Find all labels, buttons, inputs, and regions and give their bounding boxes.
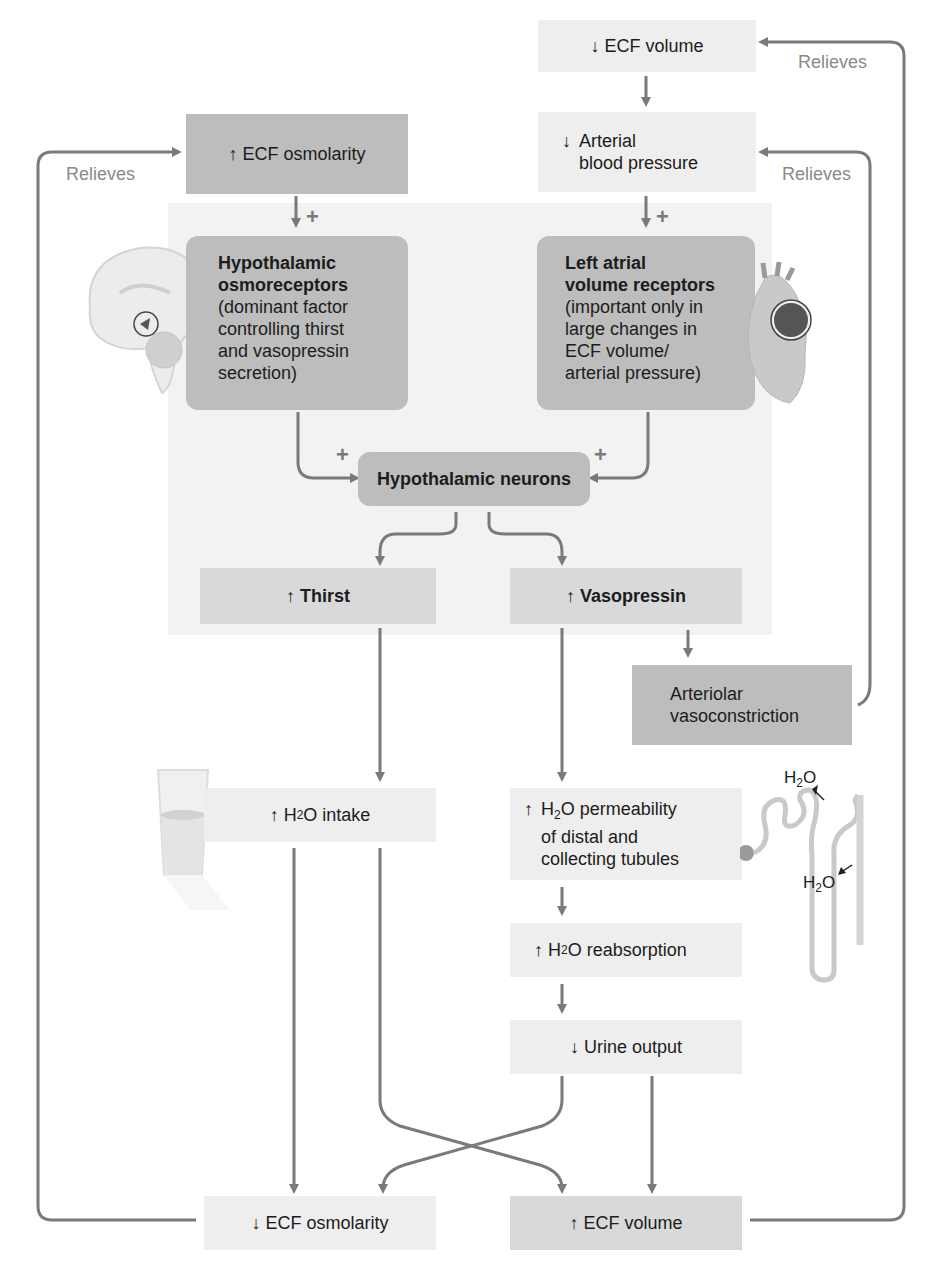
arteriolar-label: Arteriolar bbox=[670, 683, 799, 705]
up-arrow-icon: ↑ bbox=[286, 585, 295, 607]
atrial-desc-1: (important only in bbox=[565, 296, 741, 318]
h2o-h: H bbox=[548, 939, 561, 961]
up-arrow-icon: ↑ bbox=[534, 939, 543, 961]
h2o-sub: 2 bbox=[796, 776, 803, 790]
ecf-osmolarity-decrease-label: ECF osmolarity bbox=[265, 1212, 388, 1234]
urine-output-label: Urine output bbox=[584, 1036, 682, 1058]
atrial-receptors-box: Left atrial volume receptors (important … bbox=[537, 236, 755, 410]
up-arrow-icon: ↑ bbox=[228, 143, 237, 165]
atrial-desc-3: ECF volume/ bbox=[565, 340, 741, 362]
h2o-out-label: H2O bbox=[784, 768, 816, 790]
h2o-intake-label: O intake bbox=[303, 804, 370, 826]
ecf-volume-decrease-box: ↓ ECF volume bbox=[538, 20, 756, 72]
vasopressin-increase-box: ↑ Vasopressin bbox=[510, 568, 742, 624]
atrial-title-2: volume receptors bbox=[565, 274, 741, 296]
osmoreceptors-desc-3: and vasopressin bbox=[218, 340, 394, 362]
osmoreceptors-title-2: osmoreceptors bbox=[218, 274, 394, 296]
urine-output-decrease-box: ↓ Urine output bbox=[510, 1020, 742, 1074]
osmoreceptors-desc-4: secretion) bbox=[218, 362, 394, 384]
h2o-permeability-increase-box: ↑ H2O permeability of distal and collect… bbox=[510, 788, 742, 880]
connector-arrows bbox=[0, 0, 932, 1273]
plus-sign-right: + bbox=[594, 442, 607, 468]
down-arrow-icon: ↓ bbox=[251, 1212, 260, 1234]
relieves-label-mid: Relieves bbox=[782, 164, 851, 185]
plus-sign-atrial: + bbox=[656, 204, 669, 230]
distal-label: of distal and bbox=[541, 826, 679, 848]
down-arrow-icon: ↓ bbox=[590, 35, 599, 57]
relieves-label-top: Relieves bbox=[798, 52, 867, 73]
ecf-osmolarity-decrease-box: ↓ ECF osmolarity bbox=[204, 1196, 436, 1250]
osmoreceptors-box: Hypothalamic osmoreceptors (dominant fac… bbox=[186, 236, 408, 410]
collecting-tubules-label: collecting tubules bbox=[541, 848, 679, 870]
ecf-volume-increase-label: ECF volume bbox=[583, 1212, 682, 1234]
h2o-sub: 2 bbox=[815, 881, 822, 895]
h2o-reabsorption-label: O reabsorption bbox=[568, 939, 687, 961]
vasopressin-label: Vasopressin bbox=[580, 585, 686, 607]
blood-pressure-label: blood pressure bbox=[579, 152, 698, 174]
ecf-volume-decrease-label: ECF volume bbox=[604, 35, 703, 57]
h2o-o: O bbox=[822, 873, 835, 892]
down-arrow-icon: ↓ bbox=[570, 1036, 579, 1058]
vasoconstriction-label: vasoconstriction bbox=[670, 705, 799, 727]
ecf-osmolarity-increase-box: ↑ ECF osmolarity bbox=[186, 114, 408, 194]
thirst-increase-box: ↑ Thirst bbox=[200, 568, 436, 624]
plus-sign-osmo: + bbox=[306, 204, 319, 230]
vasoconstriction-box: Arteriolar vasoconstriction bbox=[632, 665, 852, 745]
h2o-sub: 2 bbox=[554, 808, 561, 822]
h2o-h: H bbox=[803, 873, 815, 892]
h2o-o: O bbox=[803, 768, 816, 787]
h2o-sub: 2 bbox=[297, 804, 304, 826]
thirst-label: Thirst bbox=[300, 585, 350, 607]
atrial-desc-2: large changes in bbox=[565, 318, 741, 340]
h2o-h: H bbox=[784, 768, 796, 787]
heart-illustration-icon bbox=[735, 258, 815, 408]
osmoreceptors-desc-2: controlling thirst bbox=[218, 318, 394, 340]
osmoreceptors-title-1: Hypothalamic bbox=[218, 252, 394, 274]
up-arrow-icon: ↑ bbox=[569, 1212, 578, 1234]
h2o-sub: 2 bbox=[561, 939, 568, 961]
h2o-h: H bbox=[284, 804, 297, 826]
down-arrow-icon: ↓ bbox=[562, 130, 571, 174]
relieves-label-left: Relieves bbox=[66, 164, 135, 185]
up-arrow-icon: ↑ bbox=[270, 804, 279, 826]
atrial-desc-4: arterial pressure) bbox=[565, 362, 741, 384]
atrial-title-1: Left atrial bbox=[565, 252, 741, 274]
hypothalamic-neurons-box: Hypothalamic neurons bbox=[358, 452, 590, 506]
up-arrow-icon: ↑ bbox=[524, 798, 533, 870]
h2o-intake-increase-box: ↑ H2O intake bbox=[204, 788, 436, 842]
osmoreceptors-desc-1: (dominant factor bbox=[218, 296, 394, 318]
h2o-h: H bbox=[541, 799, 554, 819]
arterial-pressure-decrease-box: ↓ Arterial blood pressure bbox=[538, 112, 756, 192]
arterial-label: Arterial bbox=[579, 130, 698, 152]
hypothalamic-neurons-label: Hypothalamic neurons bbox=[377, 468, 571, 490]
ecf-volume-increase-box: ↑ ECF volume bbox=[510, 1196, 742, 1250]
up-arrow-icon: ↑ bbox=[566, 585, 575, 607]
plus-sign-left: + bbox=[336, 442, 349, 468]
h2o-permeability-label: O permeability bbox=[561, 799, 677, 819]
h2o-in-label: H2O bbox=[803, 873, 835, 895]
ecf-osmolarity-increase-label: ECF osmolarity bbox=[242, 143, 365, 165]
h2o-reabsorption-increase-box: ↑ H2O reabsorption bbox=[510, 923, 742, 977]
